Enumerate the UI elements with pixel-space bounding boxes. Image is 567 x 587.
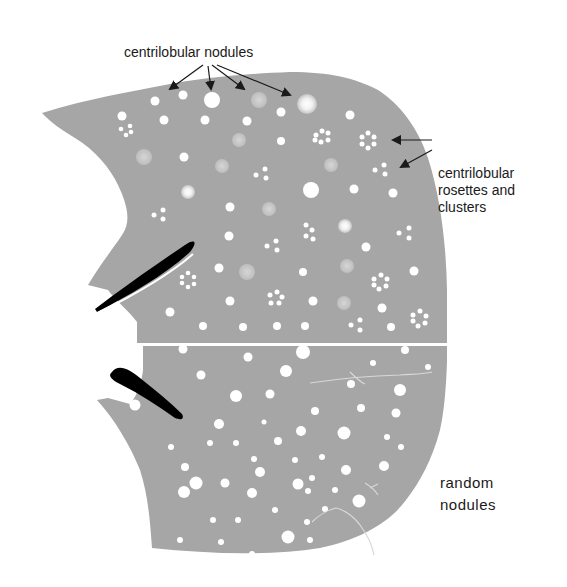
label-centrilobular-rosettes: centrilobular rosettes and clusters [438, 165, 515, 216]
label-line: nodules [440, 494, 496, 516]
upper-lobe [42, 72, 447, 343]
label-line: rosettes and [438, 182, 515, 199]
label-line: clusters [438, 199, 515, 216]
lower-lobe [97, 346, 447, 553]
label-line: random [440, 472, 496, 494]
label-line: centrilobular [438, 165, 515, 182]
label-random-nodules: random nodules [440, 472, 496, 516]
label-centrilobular-nodules: centrilobular nodules [124, 44, 253, 61]
